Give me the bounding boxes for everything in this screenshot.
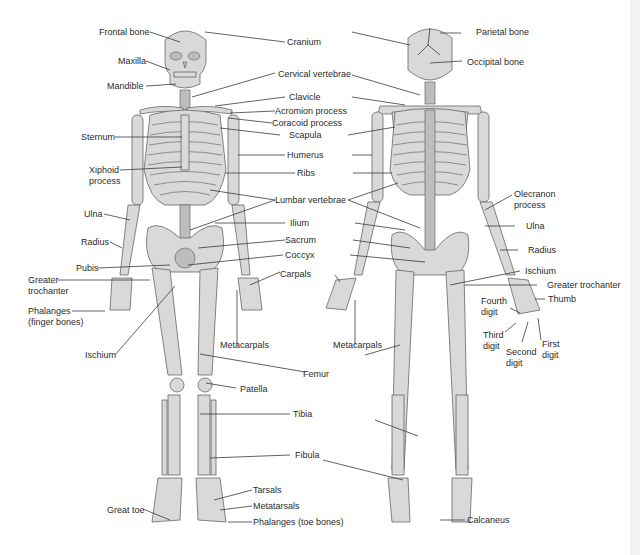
label-metatarsals: Metatarsals: [253, 501, 300, 512]
label-occipital-bone: Occipital bone: [467, 57, 524, 68]
label-cranium: Cranium: [287, 37, 321, 48]
label-coracoid-process: Coracoid process: [272, 118, 342, 129]
label-acromion-process: Acromion process: [275, 106, 347, 117]
label-ulna-posterior: Ulna: [526, 221, 545, 232]
posterior-skeleton: [326, 28, 540, 522]
label-olecranon-process: Olecranon process: [514, 189, 556, 211]
label-first-digit: First digit: [542, 339, 560, 361]
label-xiphoid-process: Xiphoid process: [89, 165, 121, 187]
label-phalanges-toe: Phalanges (toe bones): [253, 517, 344, 528]
label-lumbar-vertebrae: Lumbar vertebrae: [275, 195, 346, 206]
label-sternum: Sternum: [81, 132, 115, 143]
skeleton-illustration: [0, 0, 640, 555]
label-radius-posterior: Radius: [528, 245, 556, 256]
label-great-toe: Great toe: [107, 505, 145, 516]
label-greater-trochanter-posterior: Greater trochanter: [547, 280, 621, 291]
label-femur: Femur: [303, 369, 329, 380]
label-ilium: Ilium: [290, 218, 309, 229]
label-ulna-anterior: Ulna: [84, 209, 103, 220]
label-coccyx: Coccyx: [285, 250, 315, 261]
label-fibula: Fibula: [295, 450, 320, 461]
label-ischium-posterior: Ischium: [525, 266, 556, 277]
label-patella: Patella: [240, 384, 268, 395]
skeleton-diagram: Frontal bone Maxilla Mandible Sternum Xi…: [0, 0, 640, 555]
label-mandible: Mandible: [107, 81, 144, 92]
label-scapula: Scapula: [289, 130, 322, 141]
label-tibia: Tibia: [293, 409, 312, 420]
label-humerus: Humerus: [287, 150, 324, 161]
label-sacrum: Sacrum: [285, 235, 316, 246]
label-thumb: Thumb: [548, 294, 576, 305]
label-fourth-digit: Fourth digit: [481, 296, 507, 318]
label-phalanges-finger: Phalanges (finger bones): [28, 306, 84, 328]
label-tarsals: Tarsals: [253, 485, 282, 496]
label-maxilla: Maxilla: [118, 56, 146, 67]
label-clavicle: Clavicle: [289, 92, 321, 103]
label-frontal-bone: Frontal bone: [99, 27, 150, 38]
label-calcaneus: Calcaneus: [467, 515, 510, 526]
label-cervical-vertebrae: Cervical vertebrae: [278, 69, 351, 80]
label-second-digit: Second digit: [506, 347, 537, 369]
label-metacarpals-anterior: Metacarpals: [220, 340, 269, 351]
label-ischium-anterior: Ischium: [85, 350, 116, 361]
page-edge-shadow: [630, 0, 640, 555]
label-radius-anterior: Radius: [81, 237, 109, 248]
label-carpals: Carpals: [280, 269, 311, 280]
label-metacarpals-posterior: Metacarpals: [333, 340, 382, 351]
anterior-skeleton: [110, 31, 262, 522]
label-greater-trochanter-anterior: Greater trochanter: [28, 275, 69, 297]
label-ribs: Ribs: [297, 168, 315, 179]
label-parietal-bone: Parietal bone: [476, 27, 529, 38]
label-third-digit: Third digit: [483, 330, 504, 352]
label-pubis: Pubis: [76, 263, 99, 274]
